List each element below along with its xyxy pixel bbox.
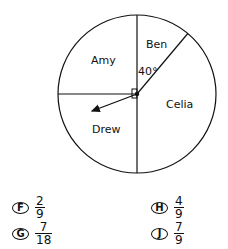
fraction: 2 9 <box>35 195 45 220</box>
numerator: 7 <box>39 221 49 233</box>
choice-j[interactable]: J 7 9 <box>151 221 184 246</box>
choice-letter-badge: J <box>151 228 168 240</box>
sector-label-celia: Celia <box>166 98 193 111</box>
fraction: 7 9 <box>174 221 184 246</box>
numerator: 2 <box>35 195 45 207</box>
choice-h[interactable]: H 4 9 <box>151 195 184 220</box>
fraction: 7 18 <box>35 221 52 246</box>
spinner-pivot <box>135 92 139 96</box>
denominator: 18 <box>35 234 52 246</box>
angle-label: 40° <box>138 65 158 78</box>
denominator: 9 <box>174 234 184 246</box>
spinner-arrow <box>92 94 137 111</box>
circle-graph: Amy Ben 40° Celia Drew <box>0 0 228 180</box>
sector-label-drew: Drew <box>92 123 121 136</box>
sector-label-amy: Amy <box>91 54 116 67</box>
choice-g[interactable]: G 7 18 <box>12 221 52 246</box>
denominator: 9 <box>35 208 45 220</box>
sector-label-ben: Ben <box>146 38 167 51</box>
fraction: 4 9 <box>174 195 184 220</box>
numerator: 4 <box>174 195 184 207</box>
numerator: 7 <box>174 221 184 233</box>
denominator: 9 <box>174 208 184 220</box>
choice-letter-badge: H <box>151 202 168 214</box>
choice-letter-badge: F <box>12 202 29 214</box>
choice-f[interactable]: F 2 9 <box>12 195 45 220</box>
choice-letter-badge: G <box>12 228 29 240</box>
